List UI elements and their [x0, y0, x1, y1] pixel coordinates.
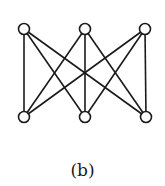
node-b3	[141, 112, 152, 123]
edge-t3-b3	[145, 29, 146, 117]
node-t2	[80, 24, 91, 35]
graph-edges	[24, 29, 146, 117]
bipartite-graph	[0, 0, 165, 150]
node-b1	[19, 112, 30, 123]
node-t3	[140, 24, 151, 35]
node-t1	[19, 24, 30, 35]
node-b2	[80, 112, 91, 123]
figure-caption: (b)	[0, 158, 165, 182]
